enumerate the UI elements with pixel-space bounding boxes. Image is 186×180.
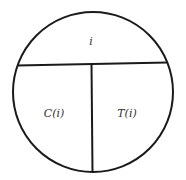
label-bottom-left-region: C(i) <box>44 107 65 120</box>
label-top-region: i <box>89 35 93 48</box>
label-bottom-right-region: T(i) <box>117 107 136 120</box>
vertical-divider <box>92 64 93 172</box>
partition-diagram: i C(i) T(i) <box>0 0 186 180</box>
